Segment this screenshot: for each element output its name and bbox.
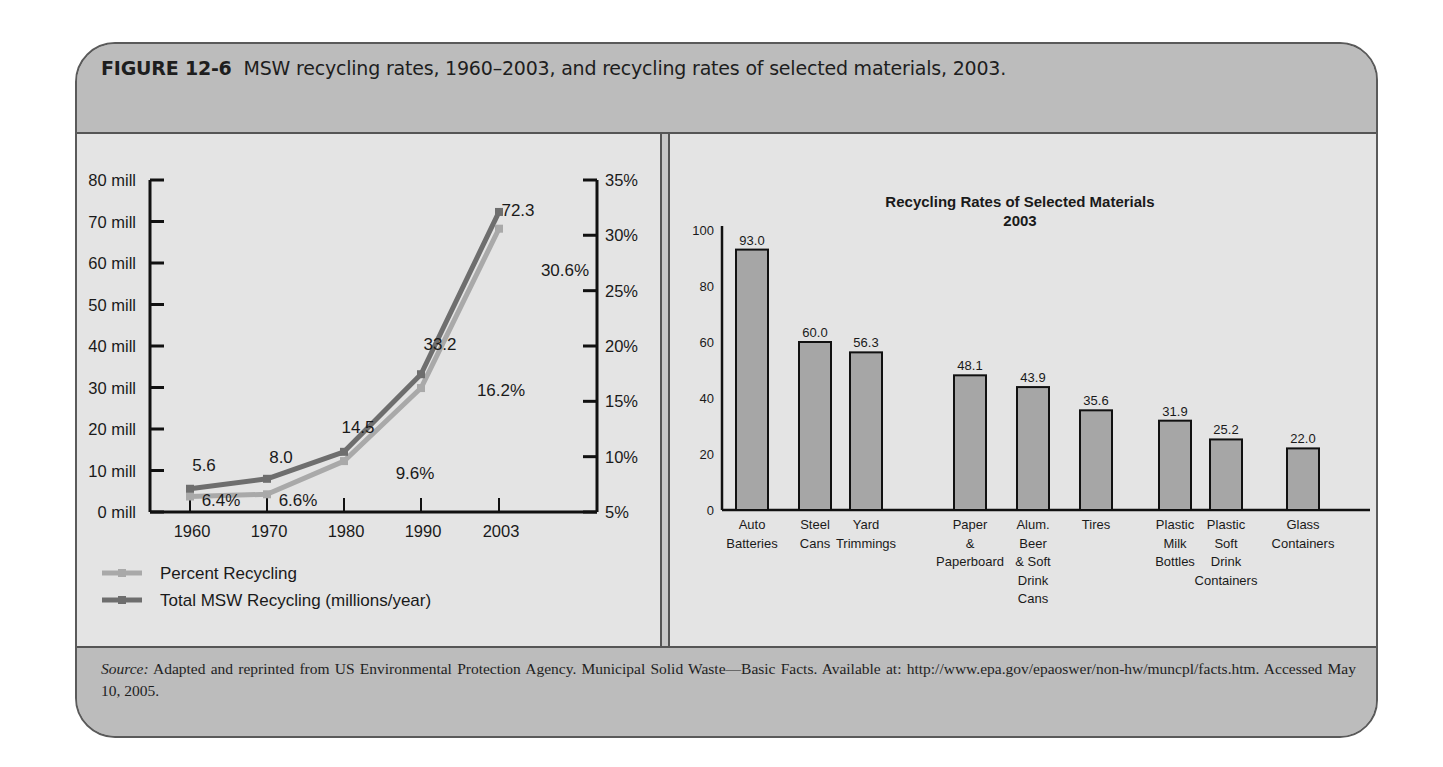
- right-tick-label: 10%: [605, 448, 638, 466]
- bar: [850, 352, 882, 510]
- bar: [1080, 410, 1112, 510]
- legend-total-marker: [118, 596, 126, 604]
- left-tick-label: 60 mill: [88, 254, 136, 272]
- bar-value-label: 56.3: [853, 335, 878, 350]
- total-marker: [417, 370, 425, 378]
- x-tick-label: 2003: [483, 522, 520, 540]
- percent-marker: [186, 493, 194, 501]
- bar-y-tick-label: 100: [692, 223, 714, 238]
- percent-recycling-line: [190, 229, 499, 497]
- percent-data-label: 16.2%: [477, 381, 525, 400]
- percent-data-label: 6.6%: [279, 491, 318, 510]
- left-tick-label: 10 mill: [88, 462, 136, 480]
- bar-category-label: Milk: [1163, 536, 1187, 551]
- left-tick-label: 40 mill: [88, 337, 136, 355]
- total-data-label: 5.6: [192, 456, 216, 475]
- left-tick-label: 30 mill: [88, 379, 136, 397]
- right-tick-label: 25%: [605, 282, 638, 300]
- legend-total-label: Total MSW Recycling (millions/year): [160, 591, 431, 610]
- bar-category-label: Plastic: [1156, 517, 1195, 532]
- x-tick-label: 1990: [405, 522, 442, 540]
- figure-title: FIGURE 12-6 MSW recycling rates, 1960–20…: [101, 57, 1006, 79]
- total-data-label: 8.0: [269, 448, 293, 467]
- figure-footer: Source: Adapted and reprinted from US En…: [77, 646, 1376, 738]
- bar-y-tick-label: 0: [707, 503, 714, 518]
- x-tick-label: 1960: [174, 522, 211, 540]
- bar-category-label: Containers: [1195, 573, 1258, 588]
- right-tick-label: 15%: [605, 392, 638, 410]
- right-tick-label: 20%: [605, 337, 638, 355]
- bar-category-label: Alum.: [1016, 517, 1049, 532]
- bar-category-label: Drink: [1211, 554, 1242, 569]
- left-tick-label: 80 mill: [88, 171, 136, 189]
- bar-category-label: Batteries: [726, 536, 778, 551]
- bar-chart-subtitle: 2003: [1003, 212, 1036, 229]
- percent-marker: [417, 384, 425, 392]
- source-text: Adapted and reprinted from US Environmen…: [101, 660, 1356, 699]
- bar-category-label: Auto: [739, 517, 766, 532]
- total-marker: [186, 485, 194, 493]
- percent-data-label: 30.6%: [541, 261, 589, 280]
- right-tick-label: 30%: [605, 226, 638, 244]
- left-tick-label: 0 mill: [97, 503, 136, 521]
- left-tick-label: 20 mill: [88, 420, 136, 438]
- total-data-label: 72.3: [501, 201, 534, 220]
- bar: [1210, 439, 1242, 510]
- bar-category-label: Beer: [1019, 536, 1047, 551]
- source-citation: Source: Adapted and reprinted from US En…: [101, 658, 1356, 702]
- bar-category-label: Glass: [1286, 517, 1320, 532]
- bar-category-label: Cans: [1018, 591, 1049, 606]
- bar-chart-title: Recycling Rates of Selected Materials: [885, 193, 1154, 210]
- bar-category-label: Yard: [853, 517, 880, 532]
- total-data-label: 33.2: [423, 335, 456, 354]
- right-tick-label: 35%: [605, 171, 638, 189]
- bar-category-label: Trimmings: [836, 536, 897, 551]
- percent-data-label: 6.4%: [202, 491, 241, 510]
- bar: [1287, 448, 1319, 510]
- bar: [1017, 387, 1049, 510]
- bar: [1159, 421, 1191, 510]
- bar-value-label: 93.0: [739, 233, 764, 248]
- total-marker: [263, 475, 271, 483]
- bar-category-label: & Soft: [1015, 554, 1051, 569]
- bar-value-label: 60.0: [802, 325, 827, 340]
- figure-frame: FIGURE 12-6 MSW recycling rates, 1960–20…: [75, 42, 1378, 738]
- line-chart-panel: 0 mill10 mill20 mill30 mill40 mill50 mil…: [77, 134, 662, 646]
- bar-value-label: 48.1: [957, 358, 982, 373]
- bar-y-tick-label: 80: [700, 279, 714, 294]
- bar-chart: Recycling Rates of Selected Materials200…: [670, 134, 1378, 646]
- x-tick-label: 1980: [328, 522, 365, 540]
- percent-marker: [495, 225, 503, 233]
- bar-y-tick-label: 40: [700, 391, 714, 406]
- legend-percent-label: Percent Recycling: [160, 564, 297, 583]
- percent-data-label: 9.6%: [396, 464, 435, 483]
- bar-y-tick-label: 60: [700, 335, 714, 350]
- left-tick-label: 50 mill: [88, 296, 136, 314]
- x-tick-label: 1970: [251, 522, 288, 540]
- source-label: Source:: [101, 660, 149, 677]
- bar-value-label: 25.2: [1213, 422, 1238, 437]
- percent-marker: [340, 457, 348, 465]
- figure-number: FIGURE 12-6: [101, 57, 232, 79]
- figure-caption: MSW recycling rates, 1960–2003, and recy…: [244, 57, 1007, 79]
- bar-category-label: Containers: [1272, 536, 1335, 551]
- bar-category-label: Tires: [1082, 517, 1111, 532]
- bar-value-label: 35.6: [1083, 393, 1108, 408]
- bar: [736, 250, 768, 510]
- bar: [799, 342, 831, 510]
- legend-percent-marker: [118, 569, 126, 577]
- left-tick-label: 70 mill: [88, 213, 136, 231]
- bar-category-label: Cans: [800, 536, 831, 551]
- bar-category-label: Paper: [953, 517, 988, 532]
- total-marker: [340, 448, 348, 456]
- bar-category-label: Soft: [1214, 536, 1238, 551]
- bar-category-label: Steel: [800, 517, 830, 532]
- line-chart: 0 mill10 mill20 mill30 mill40 mill50 mil…: [77, 134, 660, 646]
- bar-category-label: Plastic: [1207, 517, 1246, 532]
- bar-category-label: &: [966, 536, 975, 551]
- figure-header: FIGURE 12-6 MSW recycling rates, 1960–20…: [77, 44, 1376, 134]
- bar-value-label: 43.9: [1020, 370, 1045, 385]
- percent-marker: [263, 490, 271, 498]
- right-tick-label: 5%: [605, 503, 629, 521]
- bar-chart-panel: Recycling Rates of Selected Materials200…: [668, 134, 1378, 646]
